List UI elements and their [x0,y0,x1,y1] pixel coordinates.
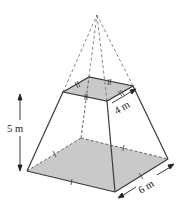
height-label: 5 m [7,123,23,134]
frustum-diagram: 5 m 4 m 6 m [0,0,181,208]
bottom-side-label: 6 m [136,178,155,196]
top-face [63,77,133,101]
